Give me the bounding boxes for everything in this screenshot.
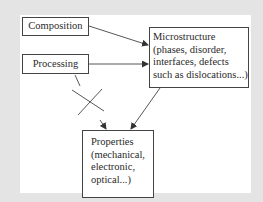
node-processing: Processing bbox=[22, 54, 89, 74]
node-microstructure-line: (phases, disorder, bbox=[153, 44, 248, 57]
cross-mark-stroke-1 bbox=[72, 90, 104, 111]
node-microstructure-line: interfaces, defects bbox=[153, 56, 248, 69]
node-composition-label: Composition bbox=[28, 20, 82, 31]
cross-mark-stroke-2 bbox=[78, 89, 102, 115]
node-microstructure: Microstructure (phases, disorder, interf… bbox=[149, 27, 249, 88]
node-properties-line: optical...) bbox=[91, 174, 153, 187]
node-microstructure-line: Microstructure bbox=[153, 31, 248, 44]
node-microstructure-line: such as dislocations...) bbox=[153, 69, 248, 82]
node-composition: Composition bbox=[22, 17, 89, 36]
arrow-processing-to-properties-top bbox=[75, 75, 80, 86]
node-properties-line: Properties bbox=[91, 136, 153, 149]
node-properties: Properties (mechanical, electronic, opti… bbox=[82, 130, 154, 198]
arrow-microstructure-to-properties bbox=[131, 88, 160, 129]
arrow-processing-to-properties-bottom bbox=[100, 120, 106, 129]
node-processing-label: Processing bbox=[33, 58, 79, 69]
node-properties-line: electronic, bbox=[91, 161, 153, 174]
node-properties-line: (mechanical, bbox=[91, 149, 153, 162]
arrow-composition-to-microstructure bbox=[89, 26, 148, 45]
